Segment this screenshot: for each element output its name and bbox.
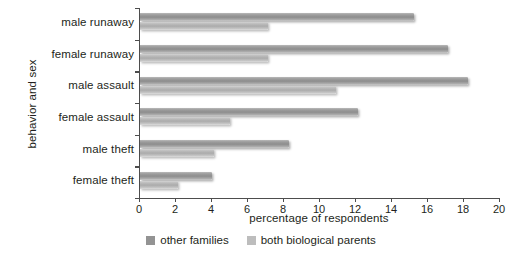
legend-label: other families [160,234,228,246]
x-axis-tick [139,198,140,202]
legend-label: both biological parents [261,234,376,246]
bar-male-assault-other-families [140,77,468,85]
bar-female-assault-both-biological-parents [140,117,230,125]
x-axis-tick [283,198,284,202]
legend-swatch-icon [247,236,256,245]
plot-area: 02468101214161820 [139,8,499,198]
bar-female-theft-both-biological-parents [140,181,178,189]
bar-female-assault-other-families [140,108,358,116]
legend-swatch-icon [146,236,155,245]
chart-legend: other familiesboth biological parents [0,234,522,246]
y-axis-tick [135,198,139,199]
x-axis-tick [463,198,464,202]
category-label-male-assault: male assault [0,79,134,91]
legend-item-other-families: other families [146,234,228,246]
x-axis-tick [247,198,248,202]
x-axis-tick [319,198,320,202]
y-axis-tick [135,71,139,72]
bar-female-runaway-other-families [140,45,448,53]
x-axis-tick [391,198,392,202]
bar-female-runaway-both-biological-parents [140,54,268,62]
category-label-male-theft: male theft [0,143,134,155]
x-axis-tick [499,198,500,202]
category-label-female-assault: female assault [0,111,134,123]
x-axis-tick [427,198,428,202]
y-axis-tick [135,166,139,167]
bar-male-runaway-other-families [140,13,414,21]
x-axis-tick [211,198,212,202]
bar-male-theft-both-biological-parents [140,149,214,157]
y-axis-line [139,8,140,198]
y-axis-tick [135,8,139,9]
x-axis-title: percentage of respondents [139,212,499,224]
x-axis-tick [175,198,176,202]
y-axis-tick [135,40,139,41]
y-axis-tick [135,135,139,136]
y-axis-tick [135,103,139,104]
category-label-male-runaway: male runaway [0,16,134,28]
category-label-group: male runawayfemale runawaymale assaultfe… [0,8,134,198]
x-axis-tick [355,198,356,202]
category-label-female-theft: female theft [0,174,134,186]
bar-female-theft-other-families [140,172,212,180]
bar-male-theft-other-families [140,140,289,148]
bar-male-runaway-both-biological-parents [140,22,268,30]
bar-chart: behavior and sex male runawayfemale runa… [0,0,522,264]
category-label-female-runaway: female runaway [0,48,134,60]
bar-male-assault-both-biological-parents [140,86,336,94]
legend-item-both-biological-parents: both biological parents [247,234,376,246]
